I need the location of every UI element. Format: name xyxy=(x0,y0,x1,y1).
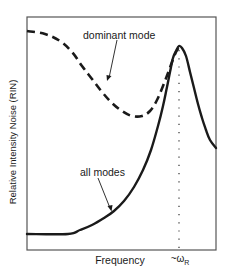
all-modes-label: all modes xyxy=(80,166,125,178)
x-axis-label: Frequency xyxy=(95,254,145,266)
all-modes-curve xyxy=(27,46,216,234)
plot-frame xyxy=(27,17,216,250)
dominant-mode-arrow xyxy=(107,40,118,81)
omega-symbol: ~ω xyxy=(171,253,185,264)
dominant-mode-label: dominant mode xyxy=(83,29,156,41)
resonance-tick-label: ~ωR xyxy=(171,253,190,266)
omega-subscript: R xyxy=(184,259,189,266)
dominant-mode-curve xyxy=(27,31,179,117)
rin-chart: dominant mode all modes Relative Intensi… xyxy=(0,0,227,277)
chart-container: dominant mode all modes Relative Intensi… xyxy=(0,0,227,277)
all-modes-arrow xyxy=(98,178,113,212)
y-axis-label: Relative Intensity Noise (RIN) xyxy=(7,80,18,205)
